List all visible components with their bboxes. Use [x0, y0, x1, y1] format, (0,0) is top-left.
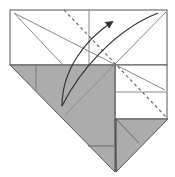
- gray-flap-left: [10, 65, 115, 172]
- diagram-canvas: [0, 0, 175, 177]
- origami-diagram: [0, 0, 175, 177]
